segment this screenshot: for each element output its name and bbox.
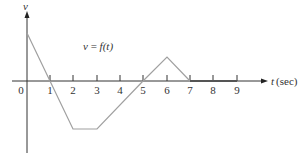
y-axis: v xyxy=(23,0,30,153)
x-tick-labels: 0 1 2 3 4 5 6 7 8 9 xyxy=(18,84,240,96)
tick-label-5: 5 xyxy=(140,84,146,96)
function-annotation: v = f(t) xyxy=(83,40,113,53)
tick-label-4: 4 xyxy=(117,84,123,96)
tick-label-0: 0 xyxy=(18,84,24,96)
x-axis-label: t(sec) xyxy=(271,75,298,88)
x-axis-arrow-icon xyxy=(261,79,268,84)
y-axis-arrow-icon xyxy=(25,11,30,18)
x-axis: t(sec) xyxy=(12,75,298,88)
velocity-graph: v t(sec) 0 1 2 3 4 5 6 7 8 9 v = f( xyxy=(0,0,298,161)
tick-label-2: 2 xyxy=(70,84,76,96)
tick-label-7: 7 xyxy=(187,84,193,96)
y-axis-label: v xyxy=(23,0,28,12)
tick-label-9: 9 xyxy=(234,84,240,96)
tick-label-8: 8 xyxy=(210,84,216,96)
tick-label-6: 6 xyxy=(164,84,170,96)
tick-label-3: 3 xyxy=(94,84,100,96)
